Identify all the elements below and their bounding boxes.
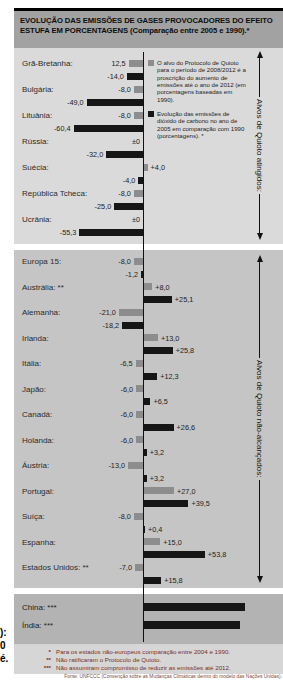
- target-row: -13,0Áustria:: [14, 459, 283, 472]
- arrow-down-icon: [257, 233, 263, 240]
- country-label: Europa 15:: [22, 257, 61, 266]
- actual-bar: [143, 621, 240, 629]
- actual-row: -55,3: [14, 226, 283, 239]
- actual-bar: [106, 151, 143, 158]
- target-row: -6,0Japão:: [14, 383, 283, 396]
- country-block: +15,0Espanha:+53,8: [14, 536, 283, 562]
- actual-bar: [143, 424, 174, 431]
- country-block: -6,0Japão:+6,5: [14, 383, 283, 409]
- actual-row: -1,2: [14, 268, 283, 281]
- country-block: +27,0Portugal:+39,5: [14, 485, 283, 511]
- actual-value: +12,3: [160, 372, 178, 381]
- country-block: ±0Ucrânia:-55,3: [14, 213, 283, 239]
- actual-bar: [143, 500, 188, 507]
- fragment-line: é.: [0, 652, 13, 665]
- country-block: -7,0Estados Unidos: **+15,8: [14, 561, 283, 587]
- legend-item-target: O alvo do Protocolo de Quioto para o per…: [148, 59, 246, 103]
- footnote-text: Para os estados não-europeus comparação …: [56, 648, 230, 656]
- target-value: -7,0: [119, 563, 132, 572]
- footnote-marker: ***: [38, 664, 56, 672]
- country-label: Alemanha:: [22, 308, 60, 317]
- target-bar: [128, 462, 143, 469]
- actual-bar: [127, 73, 143, 80]
- actual-value: +0,4: [148, 525, 162, 534]
- actual-bar: [143, 551, 205, 558]
- actual-value: +39,5: [191, 499, 209, 508]
- target-row: +27,0Portugal:: [14, 485, 283, 498]
- actual-row: +53,8: [14, 548, 283, 561]
- actual-row: +6,5: [14, 395, 283, 408]
- actual-value: +3,2: [150, 474, 164, 483]
- target-row: -21,0Alemanha:: [14, 306, 283, 319]
- country-label: Austrália: **: [22, 283, 64, 292]
- target-row: -8,0Suíça:: [14, 510, 283, 523]
- actual-row: +12,3: [14, 370, 283, 383]
- page: EVOLUÇÃO DAS EMISSÕES DE GASES PROVOCADO…: [0, 0, 283, 682]
- target-bar: [143, 334, 158, 341]
- actual-row: -25,0: [14, 200, 283, 213]
- country-label: Ucrânia:: [22, 215, 52, 224]
- legend-text-target: O alvo do Protocolo de Quioto para o per…: [157, 59, 246, 103]
- target-bar: [134, 258, 143, 265]
- actual-bar: [143, 577, 161, 584]
- actual-row: +0,4: [14, 523, 283, 536]
- target-value: -6,5: [120, 359, 133, 368]
- target-value: -8,0: [118, 111, 131, 120]
- target-bar: [136, 360, 143, 367]
- fragment-line: 0: [0, 639, 13, 652]
- title-band: EVOLUÇÃO DAS EMISSÕES DE GASES PROVOCADO…: [14, 11, 283, 48]
- country-label: República Tcheca:: [22, 189, 87, 198]
- actual-bar: [143, 347, 173, 354]
- actual-row: +25,8: [14, 344, 283, 357]
- footnote-marker: **: [38, 656, 56, 664]
- actual-row: +3,2: [14, 446, 283, 459]
- arrow-line: [259, 262, 261, 358]
- legend: O alvo do Protocolo de Quioto para o per…: [148, 59, 246, 146]
- actual-row: +15,8: [14, 574, 283, 587]
- actual-bar: [87, 99, 143, 106]
- country-block: -6,5Itália:+12,3: [14, 357, 283, 383]
- target-value: -6,0: [121, 436, 134, 445]
- not-achieved-arrow: Alvos de Quioto não-alcançados:: [254, 255, 265, 583]
- actual-bar: [79, 229, 143, 236]
- country-row: China: ***: [14, 599, 283, 617]
- achieved-arrow: Alvos de Quioto atingidos:: [254, 51, 265, 240]
- target-value: -8,0: [118, 512, 131, 521]
- fragment-line: ):: [0, 626, 13, 639]
- country-label: Irlanda:: [22, 334, 49, 343]
- actual-bar: [143, 296, 172, 303]
- actual-row: -18,2: [14, 319, 283, 332]
- country-label: Holanda:: [22, 436, 54, 445]
- target-value: +4,0: [151, 163, 165, 172]
- footnote-row: * Para os estados não-europeus comparaçã…: [38, 648, 277, 656]
- actual-bar: [74, 125, 143, 132]
- country-label: Áustria:: [22, 461, 49, 470]
- arrow-line: [259, 194, 261, 233]
- target-value: +27,0: [177, 487, 195, 496]
- target-value: +13,0: [161, 334, 179, 343]
- actual-value: -4,0: [123, 176, 136, 185]
- actual-value: -1,2: [125, 270, 138, 279]
- actual-value: +25,8: [176, 346, 194, 355]
- country-label: Grã-Bretanha:: [22, 59, 73, 68]
- section-kyoto-not-achieved: -8,0Europa 15:-1,2+8,0Austrália: **+25,1…: [14, 250, 283, 588]
- target-value: -6,0: [121, 385, 134, 394]
- country-block: +13,0Irlanda:+25,8: [14, 332, 283, 358]
- country-block: -8,0República Tcheca:-25,0: [14, 187, 283, 213]
- country-block: -13,0Áustria:+3,2: [14, 459, 283, 485]
- actual-value: +26,6: [177, 423, 195, 432]
- country-label: Itália:: [22, 359, 41, 368]
- actual-value: -25,0: [95, 202, 112, 211]
- left-edge-cut-text: ): 0 é.: [0, 626, 13, 665]
- chart-title: EVOLUÇÃO DAS EMISSÕES DE GASES PROVOCADO…: [20, 16, 277, 37]
- country-label: Suécia:: [22, 163, 49, 172]
- country-label: China: ***: [22, 603, 57, 612]
- legend-item-actual: Evolução das emissões de dióxido de carb…: [148, 110, 246, 139]
- footnotes: * Para os estados não-europeus comparaçã…: [14, 644, 283, 674]
- country-block: -8,0Europa 15:-1,2: [14, 255, 283, 281]
- country-label: Japão:: [22, 385, 46, 394]
- country-label: Rússia:: [22, 137, 49, 146]
- not-achieved-side-label: Alvos de Quioto não-alcançados:: [255, 360, 264, 477]
- actual-value: -18,2: [102, 321, 119, 330]
- actual-bar: [114, 203, 143, 210]
